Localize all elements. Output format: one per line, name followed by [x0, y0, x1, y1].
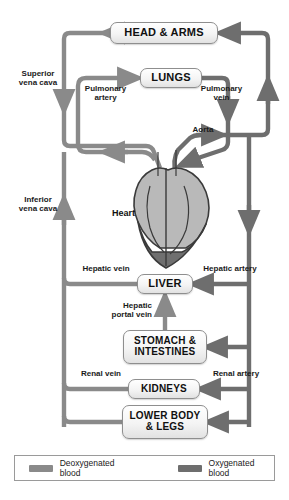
legend-entry-oxygenated: Oxygenated blood — [178, 458, 274, 478]
organ-label-stomach-intestines: STOMACH & INTESTINES — [134, 336, 196, 358]
organ-label-head-arms: HEAD & ARMS — [124, 27, 203, 39]
vessel-hepatic-vein — [64, 278, 137, 284]
organ-box-kidneys[interactable]: KIDNEYS — [128, 379, 200, 399]
legend-label-deoxygenated: Deoxygenated blood — [60, 458, 134, 478]
vessel-label-hepatic-portal-vein: Hepatic portal vein — [96, 302, 152, 320]
vessel-label-superior-vena-cava: Superior vena cava — [10, 70, 66, 88]
organ-label-liver: LIVER — [148, 278, 181, 290]
legend-label-oxygenated: Oxygenated blood — [209, 458, 274, 478]
organ-box-lungs[interactable]: LUNGS — [140, 68, 202, 88]
vessel-label-hepatic-vein: Hepatic vein — [76, 265, 136, 274]
legend-entry-deoxygenated: Deoxygenated blood — [29, 458, 134, 478]
organ-label-lower-body-legs: LOWER BODY & LEGS — [130, 411, 201, 433]
legend-swatch-oxygenated — [178, 465, 202, 472]
vessel-lower-body-return — [64, 416, 122, 422]
legend-swatch-deoxygenated — [29, 465, 53, 472]
vessel-label-pulmonary-vein: Pulmonary vein — [194, 85, 249, 103]
organ-box-stomach-intestines[interactable]: STOMACH & INTESTINES — [123, 330, 207, 364]
heart-upper-chambers — [134, 168, 209, 248]
organ-label-kidneys: KIDNEYS — [141, 384, 187, 395]
organ-box-liver[interactable]: LIVER — [137, 274, 193, 294]
organ-label-lungs: LUNGS — [151, 72, 191, 84]
vessel-label-renal-artery: Renal artery — [206, 370, 266, 379]
heart-illustration — [134, 150, 209, 268]
vessel-renal-vein — [64, 383, 128, 389]
vessel-label-inferior-vena-cava: Inferior vena cava — [10, 196, 66, 214]
heart-label: Heart — [112, 208, 135, 218]
organ-box-lower-body-legs[interactable]: LOWER BODY & LEGS — [122, 405, 208, 439]
vessel-label-hepatic-artery: Hepatic artery — [196, 265, 264, 274]
organ-box-head-arms[interactable]: HEAD & ARMS — [110, 22, 218, 44]
vessel-label-aorta: Aorta — [186, 126, 220, 135]
vessel-label-renal-vein: Renal vein — [74, 370, 128, 379]
legend: Deoxygenated blood Oxygenated blood — [14, 455, 275, 481]
circulatory-system-diagram: HEAD & ARMS LUNGS LIVER STOMACH & INTEST… — [0, 0, 289, 500]
vessel-label-pulmonary-artery: Pulmonary artery — [78, 85, 133, 103]
